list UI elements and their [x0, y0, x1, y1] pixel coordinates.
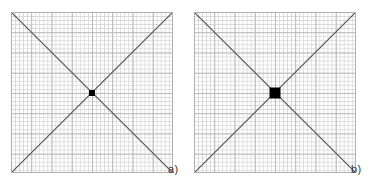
panel-a	[11, 12, 173, 173]
panel-label-b: b)	[351, 163, 361, 175]
figure-root: a) b)	[0, 0, 379, 189]
panel-b	[194, 12, 356, 173]
center-marker-b	[270, 87, 281, 98]
panel-label-a: a)	[168, 163, 178, 175]
center-marker-a	[89, 90, 95, 96]
